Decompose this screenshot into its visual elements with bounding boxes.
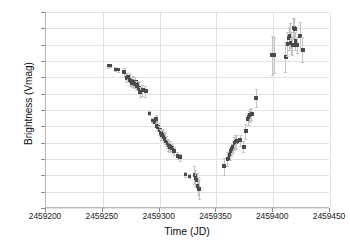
y-tick-mark: [41, 94, 45, 95]
error-bar-cap: [148, 115, 151, 116]
y-tick-mark: [41, 77, 45, 78]
data-point: [272, 53, 276, 57]
error-bar-cap: [242, 152, 245, 153]
error-bar-cap: [229, 160, 232, 161]
y-tick-mark: [41, 45, 45, 46]
data-point: [188, 175, 191, 178]
data-point: [301, 48, 305, 52]
error-bar-cap: [156, 121, 159, 122]
gridline-horizontal: [46, 77, 329, 78]
error-bar-cap: [162, 129, 165, 130]
y-axis-title: Brightness (Vmag): [23, 29, 34, 179]
error-bar-cap: [144, 97, 147, 98]
gridline-horizontal: [46, 208, 329, 209]
gridline-horizontal: [46, 143, 329, 144]
gridline-horizontal: [46, 28, 329, 29]
error-bar-cap: [301, 37, 304, 38]
error-bar-cap: [109, 67, 112, 68]
error-bar-cap: [226, 166, 229, 167]
error-bar-cap: [223, 175, 226, 176]
error-bar-cap: [197, 177, 200, 178]
gridline-horizontal: [46, 126, 329, 127]
plot-area: [45, 12, 329, 208]
gridline-horizontal: [46, 94, 329, 95]
error-bar-cap: [284, 72, 287, 73]
error-bar-cap: [117, 72, 120, 73]
error-bar-cap: [255, 107, 258, 108]
error-bar-cap: [255, 89, 258, 90]
error-bar-cap: [123, 68, 126, 69]
error-bar-cap: [188, 178, 191, 179]
data-point: [254, 96, 258, 100]
gridline-horizontal: [46, 61, 329, 62]
error-bar-cap: [138, 82, 141, 83]
error-bar-cap: [291, 55, 294, 56]
y-tick-mark: [41, 175, 45, 176]
error-bar-cap: [230, 156, 233, 157]
data-point: [291, 43, 295, 47]
error-bar-cap: [244, 139, 247, 140]
data-point: [242, 145, 246, 149]
error-bar-cap: [250, 120, 253, 121]
error-bar-cap: [242, 141, 245, 142]
data-point: [148, 112, 151, 115]
error-bar-cap: [239, 135, 242, 136]
error-bar-cap: [198, 199, 201, 200]
error-bar-cap: [198, 179, 201, 180]
error-bar-cap: [273, 73, 276, 74]
error-bar-cap: [125, 82, 128, 83]
x-axis-title: Time (JD): [45, 225, 329, 237]
error-bar-cap: [194, 170, 197, 171]
error-bar-cap: [158, 126, 161, 127]
error-bar-cap: [234, 149, 237, 150]
gridline-horizontal: [46, 192, 329, 193]
error-bar-cap: [249, 121, 252, 122]
error-bar-cap: [179, 161, 182, 162]
y-tick-mark: [41, 110, 45, 111]
error-bar-cap: [144, 86, 147, 87]
error-bar-cap: [173, 147, 176, 148]
error-bar-cap: [250, 108, 253, 109]
y-tick-mark: [41, 126, 45, 127]
error-bar-cap: [286, 56, 289, 57]
gridline-horizontal: [46, 110, 329, 111]
error-bar-cap: [299, 22, 302, 23]
y-tick-mark: [41, 192, 45, 193]
gridline-horizontal: [46, 159, 329, 160]
y-tick-mark: [41, 28, 45, 29]
gridline-vertical: [103, 12, 104, 207]
error-bar-cap: [301, 62, 304, 63]
error-bar-cap: [247, 125, 250, 126]
gridline-vertical: [330, 12, 331, 207]
gridline-horizontal: [46, 12, 329, 13]
data-point: [197, 187, 201, 191]
error-bar-cap: [193, 166, 196, 167]
data-point: [244, 129, 248, 133]
error-bar-cap: [294, 32, 297, 33]
error-bar-cap: [169, 141, 172, 142]
y-tick-mark: [41, 143, 45, 144]
error-bar-cap: [165, 136, 168, 137]
gridline-vertical: [160, 12, 161, 207]
error-bar-cap: [134, 77, 137, 78]
error-bar-cap: [155, 115, 158, 116]
data-point: [109, 64, 112, 67]
error-bar-cap: [296, 53, 299, 54]
y-tick-mark: [41, 159, 45, 160]
data-point: [144, 89, 148, 93]
error-bar-cap: [289, 23, 292, 24]
data-point: [295, 43, 299, 47]
error-bar-cap: [235, 148, 238, 149]
data-point: [178, 155, 182, 159]
error-bar-cap: [231, 154, 234, 155]
gridline-vertical: [216, 12, 217, 207]
error-bar-cap: [171, 144, 174, 145]
error-bar-cap: [164, 133, 167, 134]
error-bar-cap: [196, 173, 199, 174]
error-bar-cap: [232, 152, 235, 153]
error-bar-cap: [293, 19, 296, 20]
data-point: [250, 112, 254, 116]
data-point: [293, 27, 297, 31]
error-bar-cap: [271, 75, 274, 76]
